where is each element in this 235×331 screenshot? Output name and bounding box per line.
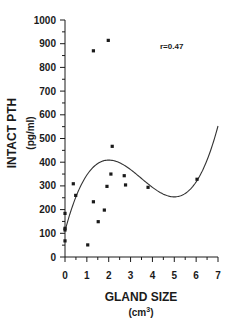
data-point [103, 208, 106, 211]
y-tick-label: 800 [39, 62, 56, 73]
data-point [195, 178, 198, 181]
x-tick-label: 6 [193, 270, 199, 281]
x-axis-title: GLAND SIZE (cm3) [105, 290, 178, 318]
x-axis-unit: (cm3) [128, 306, 153, 318]
data-point [74, 194, 77, 197]
data-point [63, 239, 66, 242]
data-points [63, 39, 198, 247]
y-axis-title: INTACT PTH (pg/ml) [5, 98, 36, 168]
correlation-annotation: r=0.47 [160, 42, 184, 51]
fit-curve [65, 126, 218, 231]
x-tick-label: 0 [62, 270, 68, 281]
y-tick-label: 700 [39, 86, 56, 97]
x-tick-label: 4 [150, 270, 156, 281]
x-tick-label: 1 [84, 270, 90, 281]
data-point [97, 220, 100, 223]
data-point [92, 200, 95, 203]
data-point [63, 228, 66, 231]
y-tick-label: 0 [50, 252, 56, 263]
y-tick-label: 1000 [34, 15, 57, 26]
y-tick-label: 900 [39, 38, 56, 49]
data-point [111, 145, 114, 148]
x-tick-label: 3 [128, 270, 134, 281]
x-tick-label: 2 [106, 270, 112, 281]
x-tick-label: 5 [172, 270, 178, 281]
data-point [92, 49, 95, 52]
y-tick-label: 400 [39, 157, 56, 168]
y-tick-label: 300 [39, 180, 56, 191]
data-point [86, 243, 89, 246]
data-point [105, 185, 108, 188]
x-tick-label: 7 [215, 270, 221, 281]
data-point [107, 39, 110, 42]
y-tick-label: 500 [39, 133, 56, 144]
chart-canvas: 01002003004005006007008009001000 0123456… [0, 0, 235, 331]
y-tick-label: 600 [39, 109, 56, 120]
x-axis: 01234567 [62, 257, 221, 281]
data-point [109, 172, 112, 175]
y-axis-label: INTACT PTH [5, 98, 19, 168]
data-point [146, 186, 149, 189]
data-point [123, 174, 126, 177]
data-point [63, 212, 66, 215]
data-point [124, 183, 127, 186]
y-tick-label: 100 [39, 228, 56, 239]
y-axis-unit: (pg/ml) [25, 116, 36, 149]
y-tick-label: 200 [39, 204, 56, 215]
x-axis-label: GLAND SIZE [105, 290, 178, 304]
data-point [72, 182, 75, 185]
fit-curve-path [65, 126, 218, 231]
y-axis: 01002003004005006007008009001000 [34, 15, 65, 263]
